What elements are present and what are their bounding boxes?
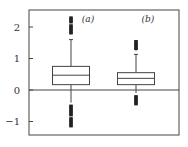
box-plot: −1012(a)(b) bbox=[0, 0, 188, 147]
y-tick-label: 2 bbox=[14, 22, 20, 33]
plot-frame bbox=[29, 10, 179, 135]
outlier-marker bbox=[69, 114, 73, 116]
outlier-marker bbox=[134, 103, 138, 105]
outlier-marker bbox=[69, 24, 73, 26]
outlier-marker bbox=[69, 125, 73, 127]
y-tick-label: −1 bbox=[5, 116, 20, 127]
series-label: (b) bbox=[142, 14, 155, 24]
y-tick-label: 1 bbox=[14, 53, 20, 64]
outlier-marker bbox=[69, 16, 73, 18]
series-label: (a) bbox=[82, 14, 95, 24]
y-tick-label: 0 bbox=[14, 85, 20, 96]
outlier-marker bbox=[134, 40, 138, 42]
